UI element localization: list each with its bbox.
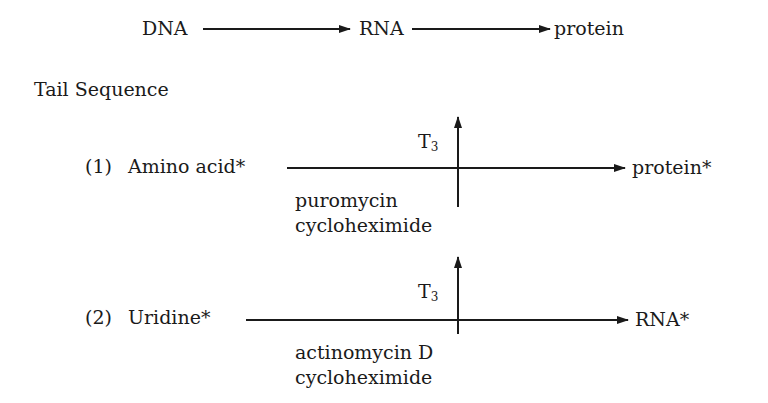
node-dna: DNA (142, 19, 188, 38)
pathway-2-inhibitor-2: cycloheximide (295, 368, 432, 387)
section-title: Tail Sequence (34, 80, 169, 99)
pathway-2-index: (2) (85, 308, 112, 327)
node-protein: protein (554, 19, 624, 38)
node-rna: RNA (359, 19, 404, 38)
pathway-2-stimulator: T3 (418, 282, 438, 303)
pathway-1-substrate: Amino acid* (128, 157, 245, 176)
pathway-1-stimulator: T3 (418, 132, 438, 153)
pathway-2-substrate: Uridine* (128, 308, 210, 327)
pathway-2-inhibitor-1: actinomycin D (295, 343, 433, 362)
pathway-1-product: protein* (632, 158, 711, 177)
pathway-1-index: (1) (85, 157, 112, 176)
pathway-1-inhibitor-2: cycloheximide (295, 216, 432, 235)
pathway-1-inhibitor-1: puromycin (295, 191, 398, 210)
pathway-2-product: RNA* (635, 310, 689, 329)
